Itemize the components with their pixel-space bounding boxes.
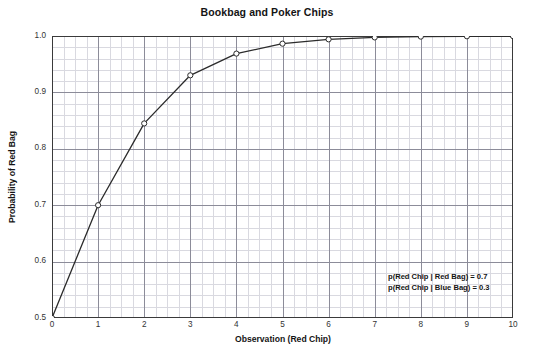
x-tick-label: 5 — [268, 320, 298, 329]
x-tick-label: 6 — [314, 320, 344, 329]
x-tick-label: 8 — [406, 320, 436, 329]
chart-title: Bookbag and Poker Chips — [0, 6, 534, 18]
x-tick-label: 3 — [175, 320, 205, 329]
x-tick-label: 1 — [83, 320, 113, 329]
chart-figure: Bookbag and Poker Chips Probability of R… — [0, 0, 534, 360]
x-axis-label: Observation (Red Chip) — [52, 334, 514, 344]
x-tick-label: 0 — [37, 320, 67, 329]
y-tick-label: 0.7 — [6, 200, 46, 209]
annotation-blue-bag: p(Red Chip | Blue Bag) = 0.3 — [388, 282, 490, 293]
y-tick-label: 0.8 — [6, 143, 46, 152]
x-tick-label: 4 — [221, 320, 251, 329]
x-tick-label: 10 — [498, 320, 528, 329]
x-tick-label: 2 — [129, 320, 159, 329]
y-tick-label: 1.0 — [6, 31, 46, 40]
y-tick-label: 0.9 — [6, 87, 46, 96]
annotation-red-bag: p(Red Chip | Red Bag) = 0.7 — [388, 271, 487, 282]
x-tick-label: 9 — [452, 320, 482, 329]
x-tick-label: 7 — [360, 320, 390, 329]
y-tick-label: 0.6 — [6, 256, 46, 265]
y-axis-label: Probability of Red Bag — [7, 97, 17, 257]
